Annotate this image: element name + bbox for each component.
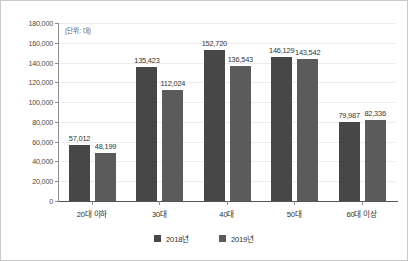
y-tick-label: 160,000 <box>28 38 53 47</box>
bar[interactable]: 135,423 <box>136 67 157 201</box>
y-tick-label: 0 <box>49 197 53 206</box>
bar-group: 146,129143,54250대 <box>261 23 328 201</box>
bar[interactable]: 152,720 <box>204 50 225 201</box>
legend-item[interactable]: 2018년 <box>154 233 189 244</box>
bar-value-label: 82,336 <box>364 109 385 118</box>
bar-group: 152,720136,54340대 <box>194 23 261 201</box>
y-tick-label: 180,000 <box>28 19 53 28</box>
y-tick-label: 20,000 <box>32 177 53 186</box>
x-tick-mark <box>362 201 363 205</box>
y-tick-label: 40,000 <box>32 157 53 166</box>
legend-label: 2019년 <box>231 233 254 244</box>
bar-value-label: 152,720 <box>202 39 227 48</box>
x-tick-mark <box>159 201 160 205</box>
bar-chart-figure: (단위: 대) 020,00040,00060,00080,000100,000… <box>0 0 408 261</box>
bar-value-label: 112,024 <box>161 79 186 88</box>
bar[interactable]: 112,024 <box>162 90 183 201</box>
x-tick-mark <box>227 201 228 205</box>
bar[interactable]: 48,199 <box>95 153 116 201</box>
x-axis-category-label: 40대 <box>219 208 234 219</box>
bar-value-label: 79,987 <box>338 111 359 120</box>
x-axis-category-label: 20대 이하 <box>77 208 107 219</box>
bar-group: 57,01248,19920대 이하 <box>59 23 126 201</box>
bar[interactable]: 82,336 <box>365 120 386 201</box>
bar-value-label: 143,542 <box>295 48 320 57</box>
bar[interactable]: 57,012 <box>69 145 90 201</box>
x-axis-line <box>58 201 398 202</box>
bar-value-label: 146,129 <box>269 46 294 55</box>
y-tick-label: 100,000 <box>28 98 53 107</box>
bar[interactable]: 146,129 <box>271 57 292 202</box>
x-axis-category-label: 30대 <box>152 208 167 219</box>
y-tick-label: 80,000 <box>32 117 53 126</box>
bar[interactable]: 136,543 <box>230 66 251 201</box>
y-tick-label: 120,000 <box>28 78 53 87</box>
bar-value-label: 48,199 <box>95 142 116 151</box>
bar-value-label: 57,012 <box>69 134 90 143</box>
x-tick-mark <box>294 201 295 205</box>
bar[interactable]: 143,542 <box>297 59 318 201</box>
legend-swatch-icon <box>219 235 226 242</box>
bar-group: 135,423112,02430대 <box>126 23 193 201</box>
legend-label: 2018년 <box>166 233 189 244</box>
bar-group: 79,98782,33660대 이상 <box>329 23 396 201</box>
y-tick-mark <box>55 201 59 202</box>
x-axis-category-label: 60대 이상 <box>346 208 376 219</box>
bar-value-label: 135,423 <box>134 56 159 65</box>
y-tick-label: 140,000 <box>28 58 53 67</box>
legend-item[interactable]: 2019년 <box>219 233 254 244</box>
legend-swatch-icon <box>154 235 161 242</box>
bar-value-label: 136,543 <box>228 55 253 64</box>
x-axis-category-label: 50대 <box>287 208 302 219</box>
plot-area: (단위: 대) 020,00040,00060,00080,000100,000… <box>59 23 396 201</box>
chart-legend: 2018년2019년 <box>1 233 407 244</box>
y-tick-label: 60,000 <box>32 137 53 146</box>
bar[interactable]: 79,987 <box>339 122 360 201</box>
x-tick-mark <box>92 201 93 205</box>
